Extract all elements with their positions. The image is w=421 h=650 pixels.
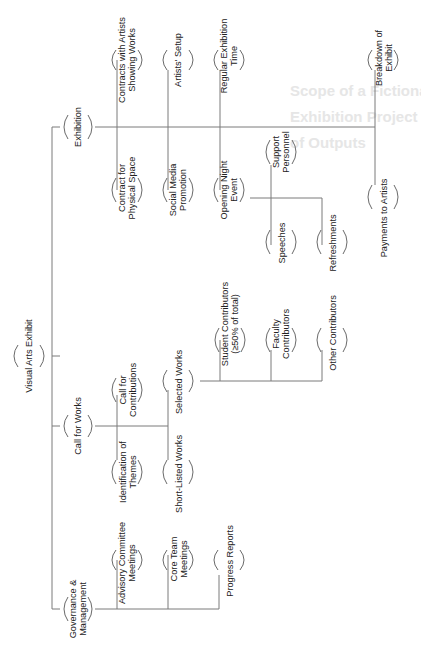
node-label: Identification of xyxy=(118,441,128,503)
node-label: Contributions xyxy=(128,363,138,417)
node-label: Student Contributors xyxy=(220,282,230,366)
node-label: Call for Works xyxy=(73,397,83,455)
node-label: Meetings xyxy=(127,522,137,604)
node-label: Payments to Artists xyxy=(379,179,389,258)
node-label: Regular Exhibition xyxy=(219,19,229,94)
wbs-diagram: Scope of a Fictional Visual Arts Exhibit… xyxy=(0,0,421,650)
node-label: Other Contributors xyxy=(328,295,338,371)
node-label: Contracts with Artists xyxy=(117,17,127,103)
node-label: Progress Reports xyxy=(225,525,235,597)
node-label: Social Media xyxy=(168,164,178,217)
node-label: Artists' Setup xyxy=(173,33,183,87)
node-label: Management xyxy=(78,580,88,639)
node-label: Visual Arts Exhibit xyxy=(24,319,34,392)
node-label: Showing Works xyxy=(127,17,137,103)
node-label: Governance & xyxy=(68,580,78,639)
node-label: Time xyxy=(229,19,239,94)
node-label: Contract for xyxy=(117,157,127,220)
node-label: Opening Night xyxy=(219,161,229,220)
connector-lines xyxy=(0,0,421,650)
node-label: Speeches xyxy=(277,223,287,264)
node-label: Event xyxy=(229,161,239,220)
node-label: Selected Works xyxy=(174,350,184,414)
node-label: Themes xyxy=(128,441,138,503)
node-label: Call for xyxy=(118,363,128,417)
node-label: Breakdown of xyxy=(374,30,384,86)
node-label: Faculty xyxy=(271,309,281,359)
node-label: Meetings xyxy=(179,537,189,582)
node-label: Refreshments xyxy=(328,214,338,271)
node-label: Personnel xyxy=(281,131,291,172)
node-label: Contributors xyxy=(281,309,291,359)
node-label: (≥50% of total) xyxy=(230,282,240,366)
node-label: Support xyxy=(271,131,281,172)
node-label: Short-Listed Works xyxy=(174,435,184,513)
node-label: Physical Space xyxy=(127,157,137,220)
node-label: Advisory Committee xyxy=(117,522,127,604)
node-label: Exhibition xyxy=(73,107,83,147)
node-label: Promotion xyxy=(178,164,188,217)
node-label: Core Team xyxy=(169,537,179,582)
node-label: Exhibit xyxy=(384,30,394,86)
